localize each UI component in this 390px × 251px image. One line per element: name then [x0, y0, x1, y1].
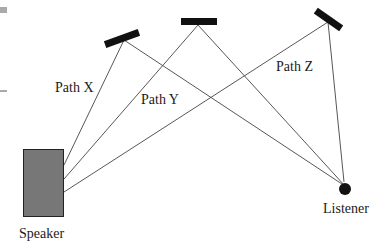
speaker-box	[24, 150, 64, 217]
path-z-incident	[64, 22, 328, 192]
label-path-x: Path X	[55, 80, 94, 95]
label-listener: Listener	[323, 201, 369, 216]
path-y-reflected	[198, 25, 345, 186]
label-path-z: Path Z	[276, 59, 313, 74]
corner-mark	[0, 7, 7, 13]
mirror-2	[181, 18, 217, 25]
path-z-reflected	[328, 22, 344, 182]
label-path-y: Path Y	[141, 92, 179, 107]
label-speaker: Speaker	[19, 226, 64, 241]
listener-dot	[339, 183, 351, 195]
reflection-diagram: Path X Path Y Path Z Speaker Listener	[0, 0, 390, 251]
path-x-incident	[64, 40, 124, 165]
